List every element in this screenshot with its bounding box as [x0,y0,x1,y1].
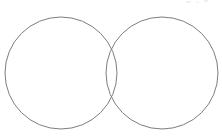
venn-circle-right [106,17,218,129]
venn-diagram-canvas [0,0,222,139]
venn-diagram-svg [0,0,222,139]
venn-circle-left [5,17,117,129]
